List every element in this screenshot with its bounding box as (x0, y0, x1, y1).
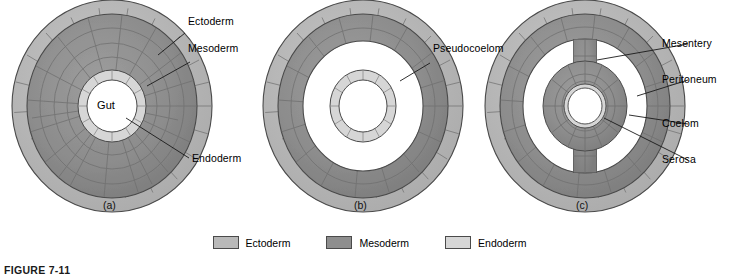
legend-item-mesoderm: Mesoderm (326, 236, 409, 249)
panel-caption-b: (b) (354, 199, 367, 211)
panel-c-graphic (485, 0, 688, 212)
label-mesentery-c: Mesentery (662, 37, 712, 49)
label-ectoderm-a: Ectoderm (188, 15, 234, 27)
legend-swatch-ectoderm (213, 236, 239, 249)
legend-label-endoderm: Endoderm (478, 237, 526, 249)
legend-item-endoderm: Endoderm (445, 236, 526, 249)
panel-b-graphic (263, 0, 463, 212)
label-coelom-c: Coelom (662, 117, 699, 129)
label-endoderm-a: Endoderm (192, 152, 241, 164)
legend-item-ectoderm: Ectoderm (213, 236, 291, 249)
panel-c-gut-lumen (568, 88, 602, 124)
label-serosa-c: Serosa (662, 153, 696, 165)
panel-caption-a: (a) (103, 199, 116, 211)
legend-swatch-mesoderm (326, 236, 352, 249)
figure-number-caption: FIGURE 7-11 (4, 264, 70, 276)
label-gut-a: Gut (97, 99, 115, 111)
label-pseudocoelom-b: Pseudocoelom (433, 42, 504, 54)
legend: Ectoderm Mesoderm Endoderm (0, 236, 739, 249)
label-mesoderm-a: Mesoderm (188, 42, 238, 54)
label-peritoneum-c: Peritoneum (662, 73, 717, 85)
legend-swatch-endoderm (445, 236, 471, 249)
legend-label-ectoderm: Ectoderm (246, 237, 291, 249)
panel-b-gut-lumen (339, 80, 387, 132)
panel-caption-c: (c) (576, 199, 588, 211)
legend-label-mesoderm: Mesoderm (359, 237, 409, 249)
